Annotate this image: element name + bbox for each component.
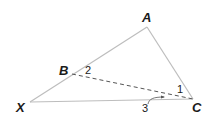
segment-bc-dashed <box>72 74 193 99</box>
vertex-label-a: A <box>141 10 151 25</box>
triangle-diagram: A B X C 2 1 3 <box>0 0 214 120</box>
angle-label-1: 1 <box>177 83 183 95</box>
vertex-label-b: B <box>59 63 68 78</box>
angle-label-3: 3 <box>142 102 148 114</box>
segment-xc <box>30 99 193 102</box>
arrowhead-icon <box>161 96 165 99</box>
angle-label-2: 2 <box>85 64 91 76</box>
vertex-label-x: X <box>15 100 26 115</box>
vertex-label-c: C <box>192 100 202 115</box>
segment-ac <box>147 27 193 99</box>
